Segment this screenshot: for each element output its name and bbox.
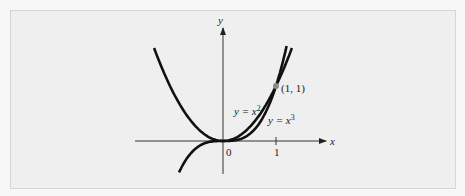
intersection-point (273, 83, 279, 89)
curve-x-cubed (179, 46, 287, 172)
point-label: (1, 1) (281, 82, 305, 95)
x-tick-label-1: 1 (274, 146, 280, 158)
label-x-cubed: y = x3 (267, 113, 295, 126)
x-tick-label-0: 0 (226, 146, 232, 158)
y-axis-label: y (217, 14, 223, 26)
label-x-squared: y = x2 (233, 104, 261, 117)
chart-canvas: y x 0 1 (1, 1) y = x2 y = x3 (0, 0, 465, 196)
x-axis-label: x (329, 135, 335, 147)
